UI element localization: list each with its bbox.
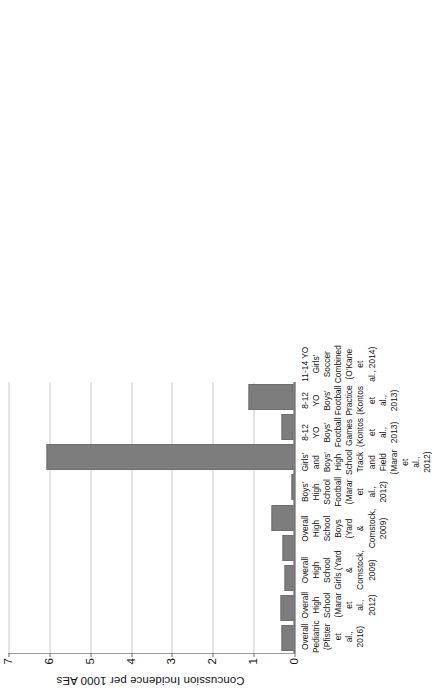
bar-slot-track-and-field — [8, 472, 293, 502]
x-label-girls-soccer: 11-14 YOGirls'SoccerCombined(O'Kane etal… — [296, 344, 394, 384]
x-label-line: (Kontos et — [354, 418, 376, 448]
bar-slot-girls-soccer — [8, 382, 293, 412]
x-label-line: Girls' — [310, 345, 321, 383]
x-label-line: Overall — [299, 620, 310, 653]
x-label-line: 2009) — [366, 550, 377, 590]
bar-slot-overall-high-school — [8, 593, 293, 623]
bar-boys-hs-football[interactable] — [271, 505, 293, 531]
x-label-hs-girls: OverallHighSchoolGirls (Yard&Comstock,20… — [296, 549, 394, 591]
tickmark-7 — [8, 653, 9, 657]
x-label-line: Football — [332, 385, 343, 415]
x-label-hs-boys: OverallHighSchoolBoys (Yard&Comstock,200… — [296, 508, 394, 550]
x-label-line: (Kontos et — [354, 385, 376, 415]
x-label-line: School — [343, 449, 354, 475]
bar-overall-pediatric[interactable] — [281, 625, 293, 651]
x-label-line: School — [321, 509, 332, 549]
bar-slot-boys-hs-football — [8, 502, 293, 532]
bar-slot-hs-boys — [8, 533, 293, 563]
plot-area — [8, 382, 294, 654]
x-label-line: Track and — [354, 449, 376, 475]
x-label-line: Field — [377, 449, 388, 475]
x-label-line: (O'Kane et — [343, 345, 365, 383]
x-label-line: al., 2012) — [410, 449, 432, 475]
y-tick-label-2: 2 — [207, 658, 219, 664]
y-axis-title: Concussion Incidence per 1000 AEs — [0, 670, 300, 692]
y-tick-label-5: 5 — [84, 658, 96, 664]
x-label-line: School — [321, 592, 332, 619]
x-label-line: Overall — [299, 592, 310, 619]
x-label-line: 11-14 YO — [299, 345, 310, 383]
bar-slot-overall-pediatric — [8, 623, 293, 653]
bar-hs-girls[interactable] — [284, 565, 293, 591]
y-axis-tick-labels: 76543210 — [8, 656, 294, 672]
tickmark-1 — [253, 653, 254, 657]
tickmark-6 — [49, 653, 50, 657]
x-label-line: Combined — [332, 345, 343, 383]
x-label-youth-football-practice: 8-12 YOBoys'FootballPractice(Kontos etal… — [296, 384, 394, 416]
gridline-0 — [294, 382, 295, 653]
x-label-line: 2009) — [377, 509, 388, 549]
x-label-line: al., 2012) — [366, 477, 388, 507]
x-label-youth-football-games: 8-12 YOBoys'FootballGames(Kontos etal., … — [296, 417, 394, 449]
x-label-line: Boys' High — [321, 449, 343, 475]
y-axis-title-text: Concussion Incidence per 1000 AEs — [56, 675, 244, 687]
x-label-line: Football — [332, 418, 343, 448]
x-label-line: al., 2013) — [377, 418, 399, 448]
x-label-line: Comstock, — [354, 550, 365, 590]
x-label-line: Football — [332, 477, 343, 507]
x-label-line: Comstock, — [366, 509, 377, 549]
y-tick-label-4: 4 — [125, 658, 137, 664]
bar-track-and-field[interactable] — [291, 474, 293, 500]
bar-slot-youth-football-games — [8, 442, 293, 472]
x-label-line: Boys' — [321, 385, 332, 415]
x-label-line: Overall — [299, 509, 310, 549]
x-label-line: Practice — [343, 385, 354, 415]
tickmark-4 — [131, 653, 132, 657]
bar-girls-soccer[interactable] — [248, 384, 293, 410]
x-label-line: Overall — [299, 550, 310, 590]
x-label-line: & — [343, 550, 354, 590]
tickmark-2 — [212, 653, 213, 657]
bar-slot-hs-girls — [8, 563, 293, 593]
x-label-line: High — [310, 509, 321, 549]
x-label-line: Girls (Yard — [332, 550, 343, 590]
y-tick-label-6: 6 — [43, 658, 55, 664]
x-label-overall-high-school: OverallHighSchool(Marar etal., 2012) — [296, 591, 394, 620]
x-label-line: (Marar et — [332, 592, 354, 619]
y-tick-label-0: 0 — [288, 658, 300, 664]
x-label-track-and-field: Girls' andBoys' HighSchoolTrack andField… — [296, 448, 394, 476]
x-label-line: (Marar et — [388, 449, 410, 475]
x-label-line: Boys (Yard — [332, 509, 354, 549]
tickmark-3 — [171, 653, 172, 657]
x-label-line: Girls' and — [299, 449, 321, 475]
x-label-line: 8-12 YO — [299, 418, 321, 448]
x-label-line: al., 2016) — [343, 620, 365, 653]
x-label-line: High — [310, 592, 321, 619]
tickmark-5 — [90, 653, 91, 657]
y-tick-label-7: 7 — [2, 658, 14, 664]
x-label-overall-pediatric: OverallPediatric(Pfister etal., 2016) — [296, 619, 394, 654]
bar-overall-high-school[interactable] — [280, 595, 293, 621]
bar-slot-youth-football-practice — [8, 412, 293, 442]
x-label-line: Soccer — [321, 345, 332, 383]
x-label-line: High — [310, 550, 321, 590]
x-label-line: Boys' High — [299, 477, 321, 507]
bar-youth-football-practice[interactable] — [281, 414, 293, 440]
x-label-line: School — [321, 550, 332, 590]
x-label-line: (Marar et — [343, 477, 365, 507]
x-label-line: al., 2013) — [377, 385, 399, 415]
y-tick-label-3: 3 — [166, 658, 178, 664]
x-label-line: 8-12 YO — [299, 385, 321, 415]
bar-hs-boys[interactable] — [282, 535, 293, 561]
x-label-line: School — [321, 477, 332, 507]
x-axis-category-labels: OverallPediatric(Pfister etal., 2016)Ove… — [296, 382, 394, 654]
bar-youth-football-games[interactable] — [46, 444, 293, 470]
x-label-line: Games — [343, 418, 354, 448]
x-label-line: & — [354, 509, 365, 549]
tickmark-0 — [294, 653, 295, 657]
x-label-line: Pediatric — [310, 620, 321, 653]
y-tick-label-1: 1 — [247, 658, 259, 664]
